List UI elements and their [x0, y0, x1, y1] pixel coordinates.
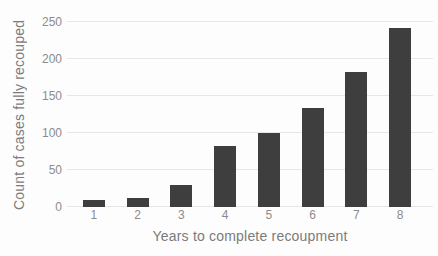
x-tick-label: 5	[247, 209, 291, 223]
y-tick-label: 200	[42, 53, 62, 65]
bar-slot	[203, 22, 247, 207]
x-tick-label: 6	[291, 209, 335, 223]
y-tick-label: 250	[42, 16, 62, 28]
bar-slot	[335, 22, 379, 207]
x-tick-label: 2	[116, 209, 160, 223]
y-tick-label: 150	[42, 90, 62, 102]
bar	[389, 28, 411, 207]
bar-slot	[291, 22, 335, 207]
bar	[302, 108, 324, 207]
y-axis-tick-labels: 050100150200250	[0, 22, 62, 207]
y-tick-label: 0	[55, 201, 62, 213]
plot-area	[67, 22, 433, 207]
bar-slot	[247, 22, 291, 207]
x-tick-label: 4	[203, 209, 247, 223]
x-tick-label: 3	[160, 209, 204, 223]
bar	[127, 198, 149, 207]
bar-slot	[160, 22, 204, 207]
x-tick-label: 1	[72, 209, 116, 223]
bar	[214, 146, 236, 207]
bars-container	[72, 22, 422, 207]
bar	[170, 185, 192, 207]
bar	[83, 200, 105, 207]
x-tick-label: 8	[378, 209, 422, 223]
x-axis-title: Years to complete recoupment	[67, 228, 433, 244]
bar	[258, 133, 280, 207]
y-tick-label: 100	[42, 127, 62, 139]
bar-slot	[72, 22, 116, 207]
x-axis-tick-labels: 12345678	[72, 209, 422, 223]
x-tick-label: 7	[335, 209, 379, 223]
bar-chart-figure: Count of cases fully recouped 0501001502…	[0, 0, 438, 256]
bar	[345, 72, 367, 207]
y-tick-label: 50	[49, 164, 62, 176]
bar-slot	[116, 22, 160, 207]
bar-slot	[378, 22, 422, 207]
